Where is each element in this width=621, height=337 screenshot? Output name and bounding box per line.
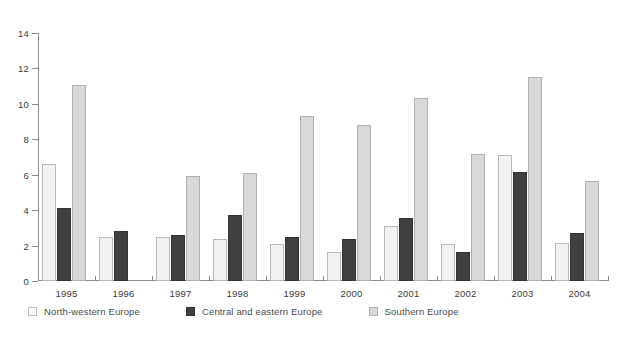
bar — [213, 239, 227, 282]
bar — [243, 173, 257, 281]
bar — [228, 215, 242, 281]
legend-item: North-western Europe — [28, 306, 140, 317]
x-axis-tick-label: 1999 — [284, 288, 306, 299]
bar-group — [494, 33, 551, 281]
bar — [555, 243, 569, 281]
legend-swatch-icon — [369, 307, 378, 316]
bar-chart: 02468101214 1995199619971998199920002001… — [0, 0, 621, 337]
bar — [171, 235, 185, 281]
x-axis-tick-label: 2004 — [569, 288, 591, 299]
y-axis-tick-label: 14 — [18, 28, 29, 39]
bar — [456, 252, 470, 281]
bar — [570, 233, 584, 281]
bar — [57, 208, 71, 282]
x-axis-tick — [608, 276, 609, 281]
bar-group — [437, 33, 494, 281]
bar — [384, 226, 398, 281]
legend-swatch-icon — [186, 307, 195, 316]
bar — [471, 154, 485, 281]
bar — [186, 176, 200, 281]
bar — [285, 237, 299, 281]
legend-item: Southern Europe — [369, 306, 459, 317]
legend-label: Southern Europe — [385, 306, 459, 317]
y-axis-tick-label: 0 — [24, 276, 29, 287]
x-axis-tick-label: 2002 — [455, 288, 477, 299]
bar-group — [152, 33, 209, 281]
x-axis-tick-label: 1996 — [113, 288, 135, 299]
x-axis-tick — [266, 276, 267, 281]
bar-group — [38, 33, 95, 281]
bar — [528, 77, 542, 281]
y-axis-tick-label: 6 — [24, 169, 29, 180]
bar — [342, 239, 356, 282]
y-axis-tick-label: 4 — [24, 205, 29, 216]
legend-swatch-icon — [28, 307, 37, 316]
bar-group — [209, 33, 266, 281]
x-axis-tick — [95, 276, 96, 281]
legend-label: North-western Europe — [44, 306, 140, 317]
bar — [441, 244, 455, 281]
y-axis-tick-label: 8 — [24, 134, 29, 145]
bar-group — [380, 33, 437, 281]
x-axis-tick-label: 1997 — [170, 288, 192, 299]
bar — [498, 155, 512, 281]
x-axis-tick — [494, 276, 495, 281]
x-axis-tick — [152, 276, 153, 281]
y-axis-tick-label: 10 — [18, 98, 29, 109]
plot-area: 02468101214 1995199619971998199920002001… — [38, 33, 608, 281]
x-axis-tick-label: 2003 — [512, 288, 534, 299]
x-axis-tick — [551, 276, 552, 281]
x-axis-tick — [437, 276, 438, 281]
x-axis-tick-label: 2001 — [398, 288, 420, 299]
y-axis-tick — [32, 281, 38, 282]
bar — [399, 218, 413, 281]
chart-legend: North-western EuropeCentral and eastern … — [28, 306, 505, 317]
bar — [300, 116, 314, 281]
bars-layer — [38, 33, 608, 281]
y-axis-tick-label: 12 — [18, 63, 29, 74]
bar — [585, 181, 599, 281]
bar — [72, 85, 86, 281]
x-axis-tick-label: 1998 — [227, 288, 249, 299]
bar — [99, 237, 113, 281]
bar — [42, 164, 56, 281]
bar — [513, 172, 527, 281]
x-axis-tick-label: 1995 — [56, 288, 78, 299]
x-axis-tick — [323, 276, 324, 281]
bar — [414, 98, 428, 281]
bar — [156, 237, 170, 281]
bar-group — [266, 33, 323, 281]
x-axis-tick — [380, 276, 381, 281]
bar — [114, 231, 128, 281]
x-axis-tick-label: 2000 — [341, 288, 363, 299]
x-axis-tick — [209, 276, 210, 281]
bar — [357, 125, 371, 281]
bar — [327, 252, 341, 281]
bar — [270, 244, 284, 281]
bar-group — [323, 33, 380, 281]
y-axis-tick-label: 2 — [24, 240, 29, 251]
legend-label: Central and eastern Europe — [202, 306, 323, 317]
legend-item: Central and eastern Europe — [186, 306, 323, 317]
bar-group — [95, 33, 152, 281]
bar-group — [551, 33, 608, 281]
